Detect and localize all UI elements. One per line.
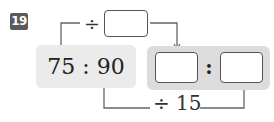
result-colon: : <box>202 50 216 84</box>
bottom-divide-operation: ÷ 15 <box>153 93 202 113</box>
result-left-input-box[interactable] <box>155 52 198 83</box>
top-divide-sign: ÷ <box>84 13 100 33</box>
original-ratio-text: 75 : 90 <box>36 45 136 88</box>
top-divisor-input-box[interactable] <box>104 10 148 37</box>
result-right-input-box[interactable] <box>220 52 263 83</box>
